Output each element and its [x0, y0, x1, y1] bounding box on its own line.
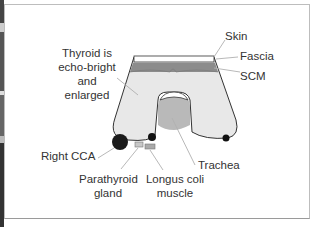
- label-right-cca: Right CCA: [41, 149, 95, 163]
- skin-layer: [134, 56, 214, 62]
- label-longus-coli: Longus coli muscle: [145, 172, 205, 200]
- label-parathyroid: Parathyroid gland: [79, 172, 137, 200]
- label-skin: Skin: [225, 29, 247, 43]
- label-thyroid: Thyroid is echo-bright and enlarged: [54, 46, 120, 102]
- label-trachea: Trachea: [198, 158, 240, 172]
- label-fascia: Fascia: [240, 49, 274, 63]
- parathyroid-gland: [135, 142, 143, 147]
- label-scm: SCM: [240, 69, 266, 83]
- jugular-node-left: [148, 133, 156, 141]
- longus-coli-muscle: [145, 144, 155, 149]
- jugular-node-right: [223, 135, 230, 142]
- scm-layer: [130, 63, 218, 72]
- right-cca: [112, 134, 128, 150]
